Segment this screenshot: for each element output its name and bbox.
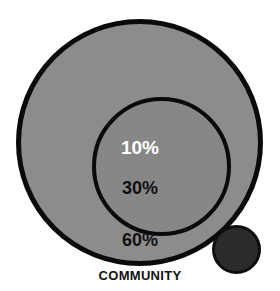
- middle-ring-30: [92, 97, 231, 236]
- middle-ring-label: 30%: [0, 179, 280, 197]
- outer-ring-label: 60%: [0, 231, 280, 249]
- concentric-circles-diagram: 10% 30% 60% COMMUNITY: [0, 0, 280, 291]
- inner-core-label: 10%: [0, 138, 280, 157]
- diagram-caption: COMMUNITY: [0, 268, 280, 283]
